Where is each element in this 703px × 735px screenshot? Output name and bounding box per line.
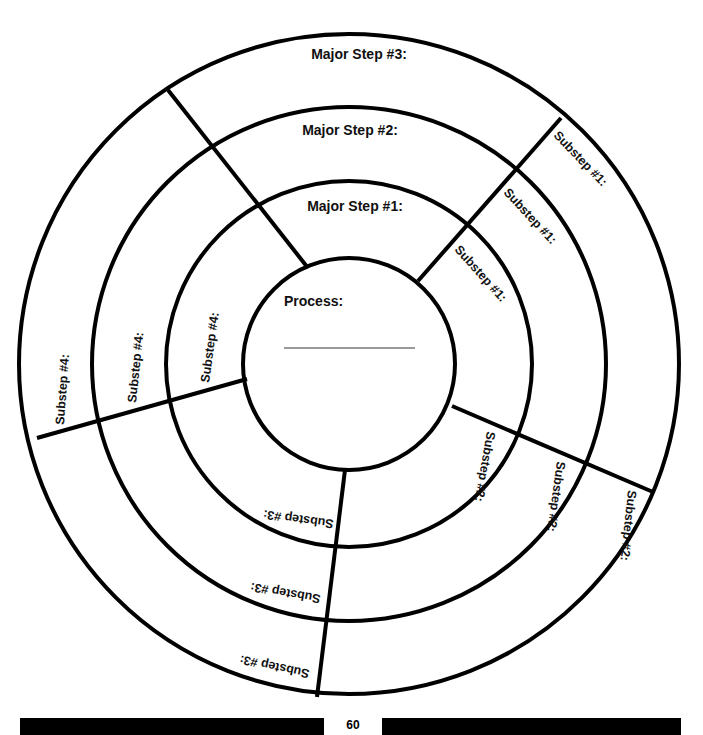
process-label: Process: xyxy=(284,293,343,309)
divider-bottom xyxy=(317,470,345,697)
footer-bar-left xyxy=(20,718,322,735)
footer-bar-right xyxy=(384,718,681,735)
center-process-circle xyxy=(243,258,455,470)
ring3-substep-2-label: Substep #2: xyxy=(618,490,639,562)
process-wheel-diagram: Process: Major Step #1: Major Step #2: M… xyxy=(0,0,703,735)
middle-ring-major-step-2 xyxy=(92,107,606,621)
page-number: 60 xyxy=(322,718,384,735)
major-step-1-label: Major Step #1: xyxy=(307,198,403,214)
ring2-substep-3-label: Substep #3: xyxy=(249,580,321,606)
divider-upper-right xyxy=(418,118,561,281)
ring2-substep-1-label: Substep #1: xyxy=(501,185,560,246)
ring2-substep-2-label: Substep #2: xyxy=(544,461,568,533)
ring1-substep-1-label: Substep #1: xyxy=(452,243,510,305)
ring2-substep-4-label: Substep #4: xyxy=(125,331,146,403)
ring1-substep-3-label: Substep #3: xyxy=(262,507,334,531)
divider-upper-left xyxy=(168,90,308,268)
ring3-substep-1-label: Substep #1: xyxy=(551,128,610,189)
major-step-3-label: Major Step #3: xyxy=(311,46,407,62)
ring3-substep-4-label: Substep #4: xyxy=(53,354,72,426)
ring1-substep-2-label: Substep #2: xyxy=(472,430,498,502)
ring1-substep-4-label: Substep #4: xyxy=(198,311,222,383)
major-step-2-label: Major Step #2: xyxy=(302,122,398,138)
